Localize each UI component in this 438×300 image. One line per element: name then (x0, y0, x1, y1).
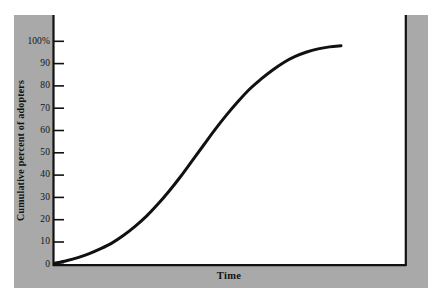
y-tick-label: 40 (40, 170, 50, 180)
y-tick-label: 50 (40, 148, 50, 158)
y-tick-label: 100% (27, 37, 50, 47)
chart-canvas (0, 0, 438, 300)
adoption-curve (55, 46, 341, 263)
y-tick-label: 10 (40, 237, 50, 247)
y-tick-label: 70 (40, 104, 50, 114)
y-tick-label: 60 (40, 126, 50, 136)
y-tick-label: 0 (45, 260, 50, 270)
y-axis-title-text: Cumulative percent of adopters (16, 79, 27, 220)
y-axis-title: Cumulative percent of adopters (14, 50, 28, 250)
y-tick-label: 20 (40, 215, 50, 225)
y-tick-label: 90 (40, 59, 50, 69)
chart-figure: 100% 90 80 70 60 50 40 30 20 10 0 Cumula… (0, 0, 438, 300)
y-tick-label: 80 (40, 81, 50, 91)
y-axis-ticks (53, 41, 64, 264)
x-axis-title: Time (53, 270, 405, 281)
y-tick-label: 30 (40, 193, 50, 203)
